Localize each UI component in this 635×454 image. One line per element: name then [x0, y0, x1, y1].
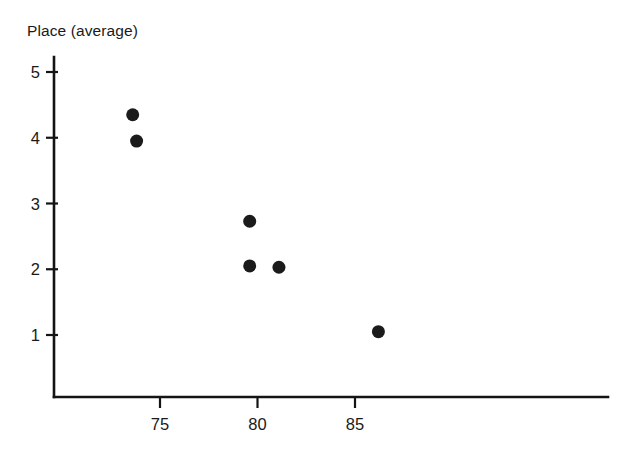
- x-tick-label: 85: [346, 415, 364, 433]
- y-tick-label: 1: [31, 326, 40, 344]
- x-axis-ticks: 758085: [151, 397, 364, 433]
- y-tick-label: 4: [31, 129, 40, 147]
- x-tick-label: 80: [248, 415, 266, 433]
- y-tick-label: 2: [31, 260, 40, 278]
- y-tick-label: 5: [31, 63, 40, 81]
- data-points-group: [126, 108, 385, 338]
- scatter-chart: Place (average) 12345 758085: [0, 0, 635, 454]
- data-point: [372, 325, 385, 338]
- data-point: [243, 259, 256, 272]
- data-point: [130, 135, 143, 148]
- x-tick-label: 75: [151, 415, 169, 433]
- data-point: [243, 215, 256, 228]
- data-point: [126, 108, 139, 121]
- data-point: [272, 261, 285, 274]
- y-tick-label: 3: [31, 195, 40, 213]
- plot-area: 12345 758085: [0, 0, 635, 454]
